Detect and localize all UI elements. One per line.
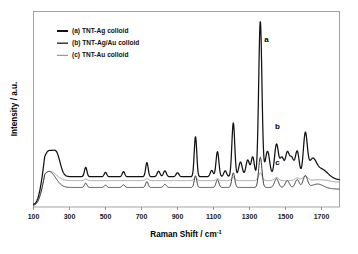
spectra-plot: 1003005007009001100130015001700 Raman Sh… (0, 0, 358, 254)
raman-spectra-figure: 1003005007009001100130015001700 Raman Sh… (0, 0, 358, 254)
legend-label: (b) TNT-Ag/Au colloid (72, 39, 139, 47)
x-axis-title: Raman Shift / cm-1 (150, 229, 221, 239)
curve-label-b: b (275, 122, 280, 131)
legend-label: (a) TNT-Ag colloid (72, 27, 128, 35)
x-tick-label: 1100 (206, 213, 221, 220)
x-tick-label: 1300 (242, 213, 258, 220)
x-tick-label: 1500 (278, 213, 294, 220)
curve-label-a: a (264, 35, 269, 44)
x-tick-label: 100 (28, 213, 40, 220)
x-tick-label: 900 (172, 213, 184, 220)
curve-label-c: c (275, 158, 280, 167)
y-axis-title: Intensity / a.u. (10, 82, 19, 137)
x-tick-label: 300 (64, 213, 76, 220)
x-tick-label: 1700 (314, 213, 330, 220)
x-tick-label: 500 (100, 213, 112, 220)
x-tick-label: 700 (136, 213, 148, 220)
legend-label: (c) TNT-Au colloid (72, 51, 128, 59)
